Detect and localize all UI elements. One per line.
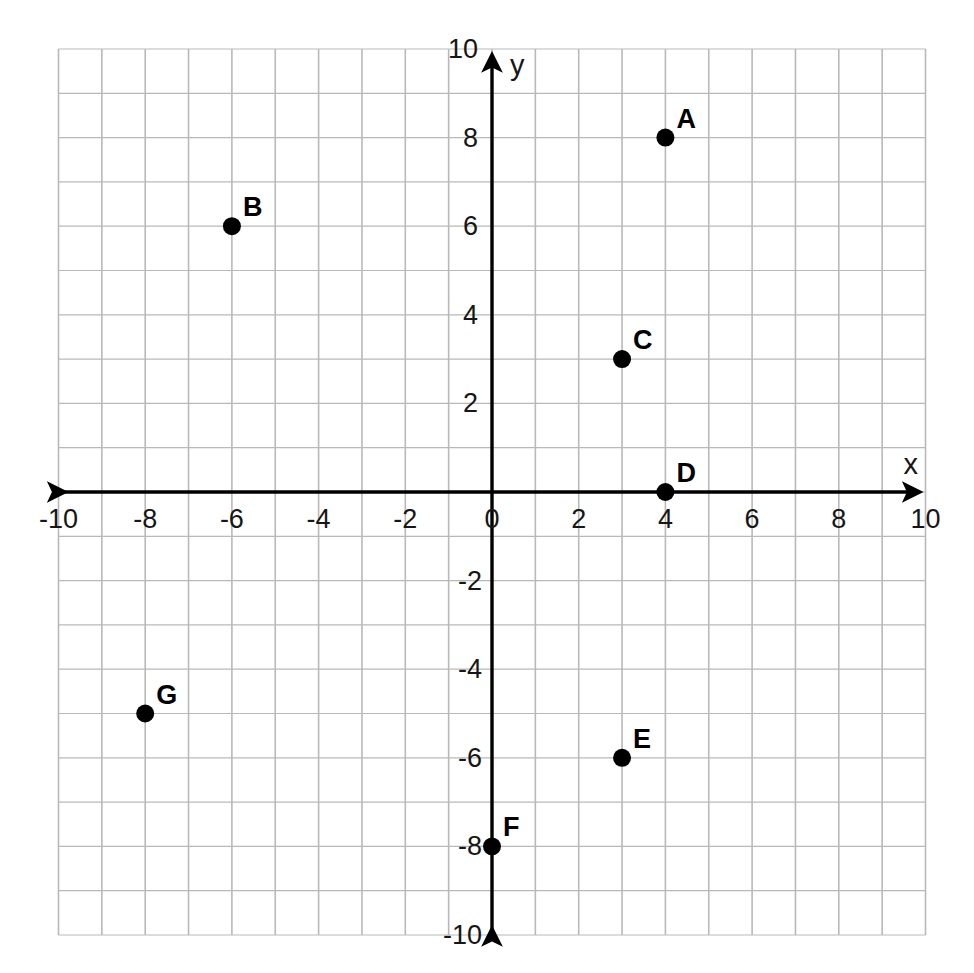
x-tick-label: 6 [745, 506, 760, 533]
data-point-D [656, 483, 674, 501]
point-label-E: E [633, 726, 651, 753]
y-tick-label: -6 [458, 744, 482, 771]
coordinate-plane-figure: -10-8-6-4-20246810108642-2-4-6-8-10xyABC… [0, 0, 974, 973]
point-label-C: C [633, 327, 653, 354]
x-tick-label: 2 [571, 506, 586, 533]
data-point-B [223, 217, 241, 235]
y-tick-label: -2 [458, 567, 482, 594]
data-point-E [613, 749, 631, 767]
x-tick-label: 10 [910, 506, 940, 533]
data-point-C [613, 350, 631, 368]
x-tick-label: -8 [133, 506, 157, 533]
y-tick-label: -4 [458, 656, 482, 683]
x-axis-label: x [904, 450, 919, 479]
x-tick-label: -10 [39, 506, 78, 533]
point-label-B: B [243, 194, 263, 221]
point-label-A: A [676, 106, 696, 133]
axis-lines [65, 55, 920, 929]
y-tick-label: 2 [463, 390, 478, 417]
y-tick-label: -8 [458, 833, 482, 860]
x-tick-label: -2 [393, 506, 417, 533]
x-tick-label: -4 [307, 506, 331, 533]
y-tick-label: 10 [448, 36, 478, 63]
data-point-F [483, 837, 501, 855]
coordinate-plane-svg [0, 0, 974, 973]
y-tick-label: -10 [443, 922, 482, 949]
x-tick-label: 0 [484, 506, 499, 533]
data-point-A [656, 129, 674, 147]
x-tick-label: 8 [831, 506, 846, 533]
point-label-D: D [676, 460, 696, 487]
data-point-G [136, 705, 154, 723]
x-tick-label: -6 [220, 506, 244, 533]
y-tick-label: 6 [463, 213, 478, 240]
point-label-F: F [503, 814, 520, 841]
point-label-G: G [156, 682, 177, 709]
y-tick-label: 8 [463, 124, 478, 151]
x-tick-label: 4 [658, 506, 673, 533]
y-axis-label: y [510, 51, 525, 80]
y-tick-label: 4 [463, 301, 478, 328]
